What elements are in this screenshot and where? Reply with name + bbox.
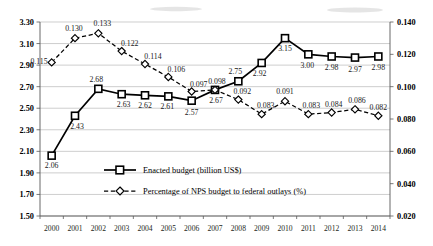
axis-right-tick-label: 0.140	[397, 18, 416, 27]
axis-left-tick-label: 3.30	[19, 18, 34, 27]
axis-x-tick-label: 2001	[67, 224, 82, 233]
axis-x-tick-label: 2000	[44, 224, 59, 233]
data-label-percentage: 0.097	[190, 80, 208, 89]
data-label-percentage: 0.083	[303, 101, 321, 110]
data-point-budget[interactable]	[328, 53, 335, 60]
data-label-budget: 2.63	[117, 100, 131, 109]
axis-left-tick-label: 2.10	[19, 147, 34, 156]
data-label-percentage: 0.092	[234, 87, 252, 96]
data-point-budget[interactable]	[48, 152, 55, 159]
axis-right-tick-label: 0.040	[397, 180, 416, 189]
chart-container: 1.501.701.902.102.302.502.702.903.103.30…	[0, 0, 433, 246]
scan-artifact	[327, 8, 383, 13]
data-label-percentage: 0.091	[276, 87, 294, 96]
axis-left-tick-label: 2.70	[19, 83, 34, 92]
axis-right-tick-label: 0.020	[397, 212, 416, 221]
data-point-percentage[interactable]	[328, 109, 335, 116]
data-label-percentage: 0.082	[370, 103, 388, 112]
data-label-percentage: 0.083	[257, 101, 275, 110]
data-label-budget: 2.67	[209, 96, 223, 105]
data-point-percentage[interactable]	[165, 73, 172, 80]
data-point-percentage[interactable]	[141, 60, 148, 67]
data-label-percentage: 0.084	[325, 100, 343, 109]
axis-x-tick-label: 2011	[301, 224, 316, 233]
data-label-budget: 2.06	[45, 161, 59, 170]
legend-label-percentage: Percentage of NPS budget to federal outl…	[143, 187, 306, 196]
axis-left-tick-label: 2.30	[19, 126, 34, 135]
axis-x-tick-label: 2009	[254, 224, 269, 233]
legend-marker-budget	[116, 166, 124, 174]
axis-x-tick-label: 2013	[347, 224, 362, 233]
axis-x-tick-label: 2012	[324, 224, 339, 233]
scan-artifact	[150, 7, 202, 11]
axis-left-tick-label: 1.70	[19, 190, 34, 199]
axis-right-tick-label: 0.120	[397, 50, 416, 59]
data-point-budget[interactable]	[282, 35, 289, 42]
data-label-budget: 2.62	[138, 101, 152, 110]
data-label-budget: 2.98	[325, 63, 339, 72]
data-label-percentage: 0.115	[30, 57, 47, 66]
data-point-budget[interactable]	[95, 85, 102, 92]
legend-label-budget: Enacted budget (billion US$)	[143, 166, 242, 175]
data-point-percentage[interactable]	[188, 88, 195, 95]
data-point-percentage[interactable]	[281, 98, 288, 105]
data-point-budget[interactable]	[142, 92, 149, 99]
axis-x-tick-label: 2003	[114, 224, 129, 233]
data-point-budget[interactable]	[352, 54, 359, 61]
axis-right-tick-label: 0.060	[397, 147, 416, 156]
axis-right-tick-label: 0.080	[397, 115, 416, 124]
data-label-budget: 2.98	[372, 63, 386, 72]
axis-x-tick-label: 2004	[137, 224, 152, 233]
data-point-budget[interactable]	[165, 93, 172, 100]
data-point-budget[interactable]	[72, 112, 79, 119]
axis-x-tick-label: 2006	[184, 224, 199, 233]
data-label-budget: 2.75	[229, 67, 243, 76]
data-label-percentage: 0.130	[65, 24, 83, 33]
axis-right-tick-label: 0.100	[397, 83, 416, 92]
data-label-budget: 2.57	[185, 108, 199, 117]
dual-axis-line-chart: 1.501.701.902.102.302.502.702.903.103.30…	[0, 0, 433, 246]
data-point-percentage[interactable]	[235, 96, 242, 103]
axis-x-tick-label: 2014	[371, 224, 386, 233]
data-point-budget[interactable]	[375, 53, 382, 60]
axis-x-tick-label: 2005	[161, 224, 176, 233]
data-point-percentage[interactable]	[95, 30, 102, 37]
data-label-percentage: 0.106	[168, 65, 186, 74]
data-label-budget: 3.15	[278, 44, 292, 53]
data-point-budget[interactable]	[305, 51, 312, 58]
data-label-percentage: 0.122	[121, 39, 139, 48]
legend-marker-percentage	[116, 187, 124, 195]
axis-x-tick-label: 2007	[207, 224, 222, 233]
data-point-budget[interactable]	[118, 91, 125, 98]
data-label-budget: 2.61	[161, 102, 175, 111]
data-point-budget[interactable]	[258, 59, 265, 66]
data-point-budget[interactable]	[188, 97, 195, 104]
axis-left-tick-label: 1.50	[19, 212, 34, 221]
data-label-budget: 2.68	[90, 75, 104, 84]
axis-x-tick-label: 2002	[91, 224, 106, 233]
axis-left-tick-label: 2.50	[19, 104, 34, 113]
data-label-budget: 2.92	[253, 69, 267, 78]
data-point-percentage[interactable]	[375, 112, 382, 119]
data-point-budget[interactable]	[235, 78, 242, 85]
data-point-percentage[interactable]	[305, 111, 312, 118]
data-label-percentage: 0.133	[94, 19, 112, 28]
data-point-percentage[interactable]	[351, 106, 358, 113]
data-label-percentage: 0.114	[144, 52, 161, 61]
axis-x-tick-label: 2010	[277, 224, 292, 233]
data-label-budget: 2.43	[70, 122, 84, 131]
data-label-percentage: 0.086	[348, 96, 366, 105]
data-label-budget: 2.97	[348, 65, 362, 74]
data-label-percentage: 0.098	[208, 77, 226, 86]
data-label-budget: 3.00	[301, 61, 315, 70]
data-point-percentage[interactable]	[258, 111, 265, 118]
axis-x-tick-label: 2008	[231, 224, 246, 233]
axis-left-tick-label: 3.10	[19, 40, 34, 49]
axis-left-tick-label: 1.90	[19, 169, 34, 178]
